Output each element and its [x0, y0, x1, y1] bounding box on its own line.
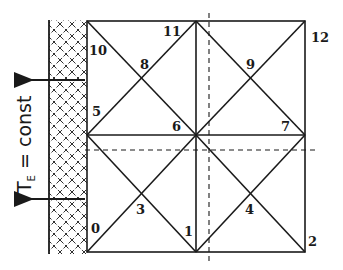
node-label-10: 10: [89, 43, 107, 58]
node-label-9: 9: [246, 57, 255, 72]
node-label-5: 5: [92, 104, 101, 119]
mesh-diagram: 0 1 2 3 4 5 6 7 8 9 10 11 12: [0, 0, 343, 270]
temperature-subscript: E: [26, 175, 37, 181]
node-label-12: 12: [311, 30, 329, 45]
node-label-6: 6: [172, 119, 181, 134]
boundary-condition-label: TE = const: [13, 96, 37, 193]
node-label-2: 2: [308, 234, 317, 249]
node-label-8: 8: [140, 57, 149, 72]
node-label-4: 4: [245, 202, 254, 217]
node-label-1: 1: [184, 224, 193, 239]
element-mesh: [87, 21, 305, 252]
node-label-0: 0: [91, 221, 100, 236]
temperature-symbol: T: [13, 181, 35, 193]
constant-text: = const: [13, 96, 35, 175]
node-label-11: 11: [163, 24, 181, 39]
wall-hatched-region: [49, 20, 87, 254]
node-label-7: 7: [281, 119, 290, 134]
node-label-3: 3: [136, 202, 145, 217]
